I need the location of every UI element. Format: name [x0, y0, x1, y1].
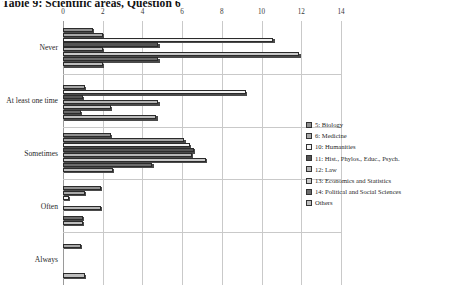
legend-swatch-icon — [306, 144, 312, 150]
legend-swatch-icon — [306, 155, 312, 161]
bar — [63, 105, 111, 109]
bar — [63, 38, 273, 42]
chart-legend: 5: Biology6: Medicine10: Humanities11: H… — [306, 119, 449, 209]
bar — [63, 244, 81, 248]
bar — [63, 168, 113, 172]
legend-item[interactable]: Others — [306, 197, 449, 208]
legend-swatch-icon — [306, 122, 312, 128]
y-gridline — [63, 127, 341, 128]
legend-item-label: 14: Political and Social Sciences — [315, 188, 401, 195]
y-category-label: Always — [35, 254, 58, 263]
bar — [63, 138, 184, 142]
legend-swatch-icon — [306, 166, 312, 172]
legend-item-label: Others — [315, 199, 333, 206]
bar — [63, 28, 93, 32]
bar — [63, 148, 194, 152]
x-tick-label: 0 — [61, 8, 65, 16]
bar — [63, 47, 103, 51]
x-gridline — [222, 21, 223, 285]
x-tick-label: 2 — [101, 8, 105, 16]
legend-item-label: 5: Biology — [315, 121, 343, 128]
legend-item[interactable]: 10: Humanities — [306, 141, 449, 152]
legend-item-label: 12: Law — [315, 166, 337, 173]
x-tick-label: 12 — [298, 8, 305, 16]
bar — [63, 85, 85, 89]
legend-item[interactable]: 11: Hist., Phylos., Educ., Psych. — [306, 153, 449, 164]
y-category-label: Never — [39, 43, 58, 52]
y-category-label: Sometimes — [24, 149, 58, 158]
bar — [63, 143, 190, 147]
bar — [63, 57, 158, 61]
bar — [63, 206, 101, 210]
legend-swatch-icon — [306, 178, 312, 184]
legend-swatch-icon — [306, 133, 312, 139]
bar — [63, 216, 83, 220]
bar — [63, 191, 85, 195]
bar — [63, 273, 85, 277]
bar — [63, 221, 83, 225]
y-category-label: Often — [41, 201, 58, 210]
y-category-label: At least one time — [6, 96, 58, 105]
legend-swatch-icon — [306, 200, 312, 206]
bar — [63, 196, 69, 200]
bar — [63, 95, 83, 99]
y-gridline — [63, 179, 341, 180]
bar — [63, 42, 158, 46]
bar — [63, 110, 81, 114]
legend-item[interactable]: 13: Economics and Statistics — [306, 175, 449, 186]
bar — [63, 100, 158, 104]
x-tick-label: 4 — [141, 8, 145, 16]
bar — [63, 163, 152, 167]
x-tick-label: 6 — [180, 8, 184, 16]
bar — [63, 90, 246, 94]
legend-swatch-icon — [306, 189, 312, 195]
y-gridline — [63, 74, 341, 75]
x-tick-label: 8 — [220, 8, 224, 16]
x-tick-label: 14 — [337, 8, 344, 16]
bar — [63, 133, 111, 137]
bar — [63, 186, 101, 190]
legend-item-label: 13: Economics and Statistics — [315, 177, 391, 184]
x-gridline — [262, 21, 263, 285]
bar — [63, 33, 103, 37]
y-gridline — [63, 232, 341, 233]
legend-item[interactable]: 5: Biology — [306, 119, 449, 130]
x-tick-label: 10 — [258, 8, 265, 16]
legend-item-label: 6: Medicine — [315, 132, 347, 139]
bar-chart-plot-area: 02468101214 NeverAt least one timeSometi… — [63, 21, 341, 285]
bar — [63, 62, 103, 66]
legend-item[interactable]: 14: Political and Social Sciences — [306, 186, 449, 197]
legend-item-label: 10: Humanities — [315, 143, 355, 150]
bar — [63, 115, 156, 119]
bar — [63, 158, 206, 162]
bar — [63, 153, 192, 157]
bar — [63, 52, 299, 56]
x-gridline — [301, 21, 302, 285]
legend-item-label: 11: Hist., Phylos., Educ., Psych. — [315, 155, 400, 162]
legend-item[interactable]: 12: Law — [306, 164, 449, 175]
table-caption: Table 9: Scientific areas, Question 6 — [2, 0, 181, 9]
legend-item[interactable]: 6: Medicine — [306, 130, 449, 141]
